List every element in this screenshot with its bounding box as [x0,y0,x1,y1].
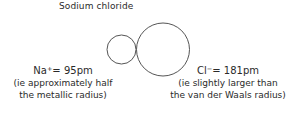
sodium-charge: + [47,65,52,73]
chloride-radius-value: = 181pm [212,65,259,76]
sodium-radius: Na+= 95pm [8,65,118,77]
sodium-symbol: Na [33,65,47,76]
chloride-note-line1: (ie slightly larger than [170,77,286,89]
sodium-ion-circle [107,35,136,64]
sodium-ion-label: Na+= 95pm (ie approximately half the met… [8,65,118,101]
sodium-radius-value: = 95pm [52,65,92,76]
chloride-symbol: Cl [197,65,207,76]
chloride-ion-label: Cl−= 181pm (ie slightly larger than the … [170,65,286,101]
chloride-radius: Cl−= 181pm [170,65,286,77]
sodium-note-line2: the metallic radius) [8,89,118,101]
chloride-charge: − [207,65,212,73]
sodium-note-line1: (ie approximately half [8,77,118,89]
chloride-note-line2: the van der Waals radius) [170,89,286,101]
